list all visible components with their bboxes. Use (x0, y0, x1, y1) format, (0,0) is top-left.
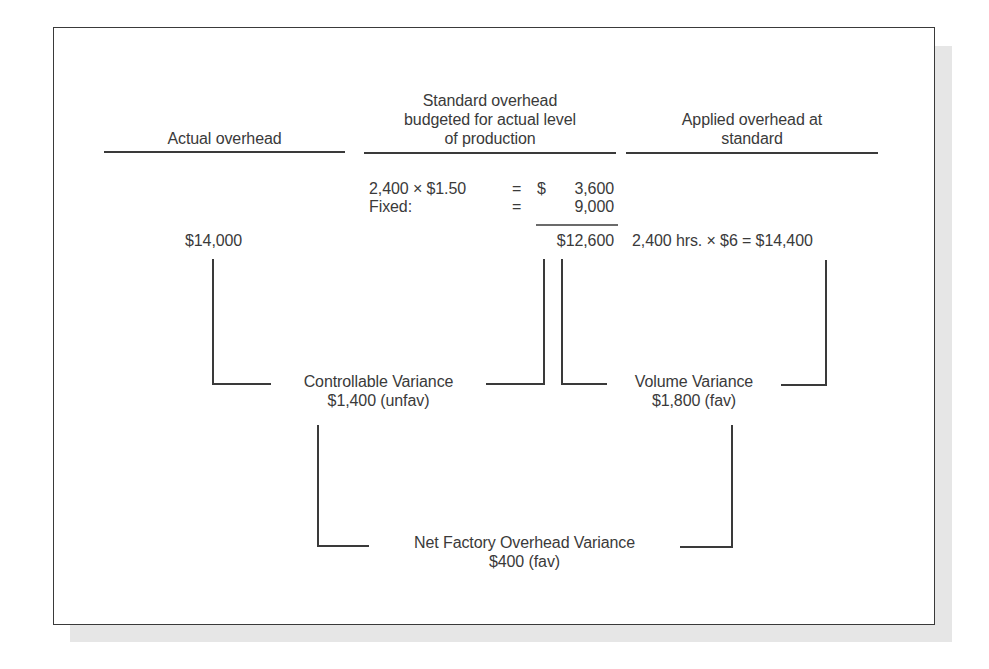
frame-shadow-right (935, 46, 952, 642)
controllable-variance-value: $1,400 (unfav) (271, 391, 486, 410)
fixed-overhead-label: Fixed: (369, 197, 412, 216)
variable-equals: = (512, 179, 521, 198)
volume-variance-value: $1,800 (fav) (607, 391, 781, 410)
fixed-equals: = (512, 197, 521, 216)
budgeted-total: $12,600 (530, 231, 614, 250)
applied-overhead-calc: 2,400 hrs. × $6 = $14,400 (632, 231, 813, 250)
header-budgeted-line1: Standard overhead (364, 91, 616, 110)
header-applied-line1: Applied overhead at (626, 110, 878, 129)
variable-overhead-label: 2,400 × $1.50 (369, 179, 466, 198)
net-variance-value: $400 (fav) (369, 552, 680, 571)
net-variance-label: Net Factory Overhead Variance (369, 533, 680, 552)
header-actual-overhead: Actual overhead (104, 129, 345, 148)
variable-currency: $ (537, 179, 546, 198)
header-applied-line2: standard (626, 129, 878, 148)
frame-shadow-bottom (70, 625, 952, 642)
header-budgeted-line2: budgeted for actual level (364, 110, 616, 129)
controllable-variance-label: Controllable Variance (271, 372, 486, 391)
header-budgeted-line3: of production (364, 129, 616, 148)
actual-overhead-value: $14,000 (185, 231, 242, 250)
volume-variance-label: Volume Variance (607, 372, 781, 391)
variable-overhead-value: 3,600 (550, 179, 614, 198)
fixed-overhead-value: 9,000 (550, 197, 614, 216)
